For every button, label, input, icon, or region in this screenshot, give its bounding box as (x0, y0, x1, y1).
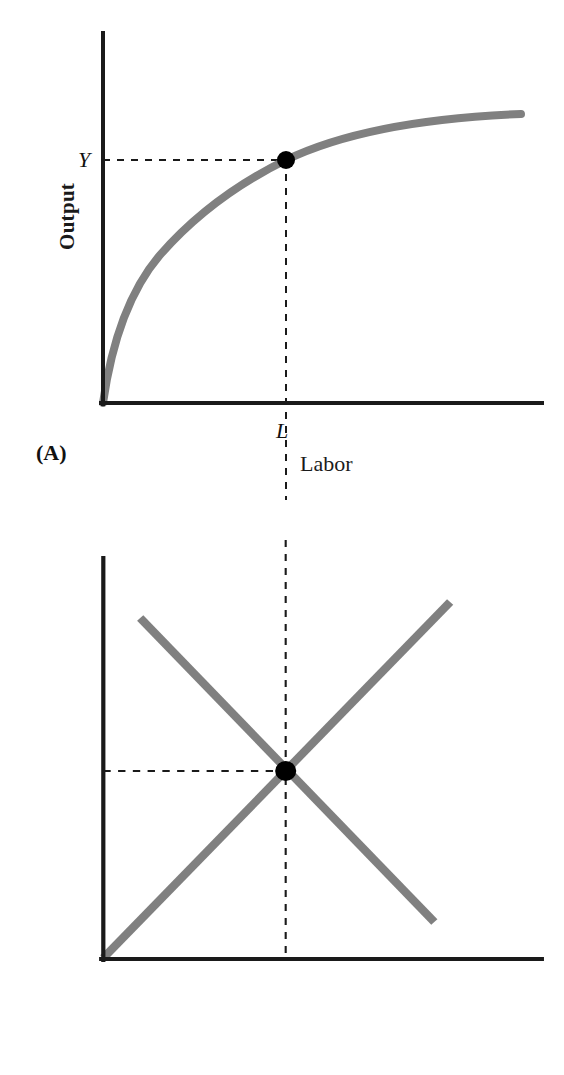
panel-a-equilibrium-dot (277, 151, 295, 169)
panel-b: W Real wage L Labor (B) Labor supply Lab… (0, 540, 564, 1075)
panel-b-plot (0, 540, 564, 1075)
panel-a-y-axis-label: Output (55, 183, 80, 250)
panel-b-equilibrium-dot (275, 761, 296, 781)
labor-supply-line (103, 602, 450, 958)
production-function-curve (103, 114, 521, 403)
panel-a: Y Output L Labor (A) (0, 0, 564, 500)
panel-a-x-value-label: L (276, 418, 288, 444)
panel-a-y-value-label: Y (78, 147, 90, 173)
panel-a-tag: (A) (36, 440, 67, 466)
figure-root: Y Output L Labor (A) W Real wage L Labor (0, 0, 564, 1075)
panel-a-x-axis-label: Labor (300, 452, 353, 477)
